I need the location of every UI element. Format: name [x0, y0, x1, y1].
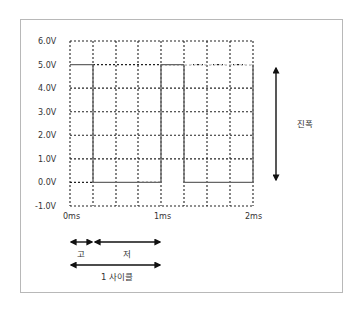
y-tick-2v: 2.0V: [38, 131, 57, 140]
square-wave-trace: [70, 65, 253, 183]
x-tick-1ms: 1ms: [154, 212, 171, 221]
cycle-label: 1 사이클: [101, 272, 133, 282]
y-tick-neg1v: -1.0V: [35, 202, 57, 211]
y-tick-6v: 6.0V: [38, 37, 57, 46]
y-tick-5v: 5.0V: [38, 61, 57, 70]
y-tick-1v: 1.0V: [38, 155, 57, 164]
x-tick-2ms: 2ms: [245, 212, 262, 221]
y-axis-labels: 6.0V 5.0V 4.0V 3.0V 2.0V 1.0V 0.0V -1.0V: [35, 37, 57, 211]
x-tick-0ms: 0ms: [63, 212, 80, 221]
amplitude-label: 진폭: [297, 119, 313, 129]
y-tick-4v: 4.0V: [38, 84, 57, 93]
y-tick-0v: 0.0V: [38, 178, 57, 187]
square-wave-diagram: 6.0V 5.0V 4.0V 3.0V 2.0V 1.0V 0.0V -1.0V…: [0, 0, 363, 309]
y-tick-3v: 3.0V: [38, 108, 57, 117]
x-axis-labels: 0ms 1ms 2ms: [63, 212, 262, 221]
high-label: 고: [77, 249, 85, 259]
low-label: 저: [123, 249, 131, 259]
